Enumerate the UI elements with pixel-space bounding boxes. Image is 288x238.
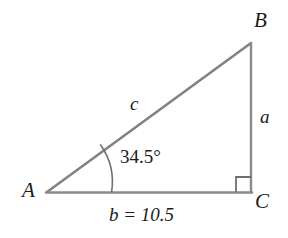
vertex-label-a: A [22, 180, 35, 201]
side-label-c: c [130, 94, 138, 113]
side-label-b-equation: b = 10.5 [109, 205, 174, 224]
vertex-label-b: B [254, 10, 267, 31]
side-label-a: a [260, 107, 270, 126]
triangle-figure: A B C a c b = 10.5 34.5° [0, 0, 288, 238]
triangle-svg [0, 0, 288, 238]
angle-measure-label: 34.5° [120, 147, 161, 166]
hypotenuse-line-ab [47, 43, 251, 192]
vertex-label-c: C [255, 191, 269, 212]
right-angle-marker-icon [236, 177, 251, 192]
